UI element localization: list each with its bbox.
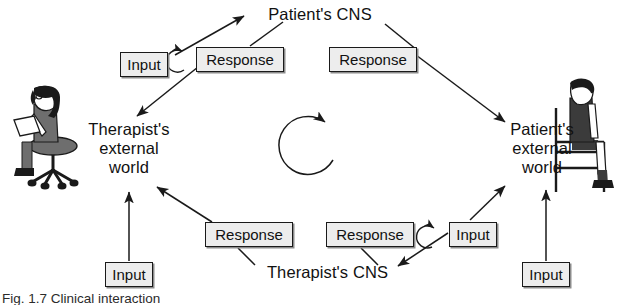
response-box-bottom-left-label: Response bbox=[215, 227, 283, 242]
response-box-bottom-right-label: Response bbox=[336, 227, 404, 242]
therapist-figure bbox=[14, 86, 79, 190]
response-box-top-left[interactable]: Response bbox=[196, 47, 284, 72]
center-cycle-arrow bbox=[279, 116, 333, 174]
input-box-bottom-right[interactable]: Input bbox=[449, 222, 497, 247]
response-box-bottom-left[interactable]: Response bbox=[205, 222, 293, 247]
input-box-bottom-right-label: Input bbox=[456, 227, 489, 242]
response-box-top-right[interactable]: Response bbox=[329, 47, 417, 72]
node-label-patient-cns: Patient's CNS bbox=[255, 5, 385, 24]
edge-input-curl-to-patient-world bbox=[470, 186, 505, 220]
response-box-top-left-label: Response bbox=[206, 52, 274, 67]
input-box-bottom-left[interactable]: Input bbox=[105, 262, 153, 287]
edge-response-right-to-patient-world bbox=[412, 52, 505, 122]
node-label-therapist-external-world: Therapist's external world bbox=[74, 120, 184, 177]
input-box-top-left-label: Input bbox=[127, 57, 160, 72]
figure-clinical-interaction-cycle: Input Response Response Response Respons… bbox=[0, 0, 632, 305]
figure-caption: Fig. 1.7 Clinical interaction bbox=[2, 291, 160, 305]
node-label-patient-external-world: Patient's external world bbox=[492, 120, 592, 177]
edge-patient-cns-to-response-left bbox=[250, 22, 283, 46]
edge-therapist-cns-to-response-bl bbox=[238, 248, 255, 265]
input-box-bottom-left-label: Input bbox=[112, 267, 145, 282]
input-box-top-left[interactable]: Input bbox=[120, 52, 168, 77]
curl-arrow-top-left bbox=[167, 50, 184, 72]
response-box-top-right-label: Response bbox=[339, 52, 407, 67]
node-label-therapist-cns: Therapist's CNS bbox=[255, 263, 400, 282]
edge-response-bl-to-therapist-world bbox=[157, 187, 212, 222]
response-box-bottom-right[interactable]: Response bbox=[326, 222, 414, 247]
input-box-far-right-label: Input bbox=[529, 267, 562, 282]
input-box-far-right[interactable]: Input bbox=[522, 262, 570, 287]
